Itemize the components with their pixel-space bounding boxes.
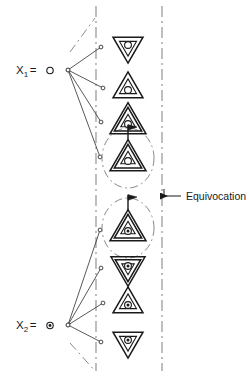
signal-symbols [110, 37, 146, 358]
source-x1-label-equals: = [30, 64, 37, 76]
source-x2-label-equals: = [30, 319, 37, 331]
lower-left-diagonal [70, 343, 95, 371]
ray-x2-4-endpoint-node [99, 340, 103, 344]
symbol-1 [113, 37, 143, 63]
ray-x2-1-endpoint-node [98, 228, 102, 232]
source-x2-marker-dot [49, 324, 52, 327]
source-x2-hub-node [66, 323, 70, 327]
source-x2-label-subscript: 2 [24, 325, 29, 334]
ray-x1-4-endpoint-node [98, 155, 102, 159]
equivocation-label: Equivocation [186, 190, 246, 202]
source-x1-label-subscript: 1 [24, 70, 29, 79]
diagram-canvas: X1=X2= Equivocation [0, 0, 249, 377]
ray-x1-1-endpoint-node [99, 45, 103, 49]
ray-x1-3-endpoint-node [99, 120, 103, 124]
symbol-1-center-circle [125, 42, 132, 49]
symbol-5-center-dot [127, 230, 130, 233]
source-nodes: X1=X2= [16, 64, 70, 334]
source-x1: X1= [16, 64, 70, 79]
symbol-2 [113, 72, 143, 98]
transition-rays [68, 45, 105, 344]
ray-x2-3-endpoint-node [101, 301, 105, 305]
symbol-4-center-circle [125, 158, 132, 165]
source-x1-hub-node [66, 68, 70, 72]
symbol-7-center-dot [127, 304, 130, 307]
source-x2-label: X2= [16, 319, 37, 334]
upper-left-diagonal [70, 18, 95, 52]
equivocation-annotation: Equivocation [160, 189, 246, 202]
source-x1-marker-circle [47, 67, 53, 73]
ray-x2-3 [68, 303, 103, 325]
ray-x1-2-endpoint-node [101, 86, 105, 90]
symbol-6 [111, 257, 145, 286]
symbol-7 [113, 287, 143, 313]
source-x1-label: X1= [16, 64, 37, 79]
ray-x2-2-endpoint-node [99, 266, 103, 270]
symbol-8-center-dot [127, 339, 130, 342]
symbol-6-center-dot [127, 265, 130, 268]
symbol-2-center-circle [125, 87, 132, 94]
source-x2: X2= [16, 319, 70, 334]
symbol-8 [113, 332, 143, 358]
equivocation-diagram: X1=X2= Equivocation [0, 0, 249, 377]
diagonal-guide-lines [70, 18, 95, 371]
